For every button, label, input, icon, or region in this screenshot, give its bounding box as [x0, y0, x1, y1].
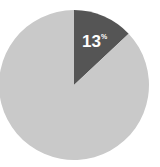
pie-slices	[0, 10, 149, 160]
pie-chart: 13%	[0, 0, 160, 167]
